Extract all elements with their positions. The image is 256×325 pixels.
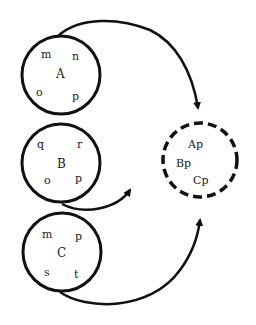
set-b-member-4: p (75, 172, 82, 185)
result-member-3: Cp (193, 174, 208, 187)
set-b: q r B o p (22, 124, 100, 202)
set-diagram: m n A o p q r B o p m p C s t Ap Bp Cp (0, 0, 256, 325)
set-c-label: C (57, 246, 66, 260)
set-a-member-4: p (72, 90, 79, 103)
set-b-member-3: o (44, 174, 51, 187)
set-b-member-2: r (77, 138, 83, 151)
set-c-member-3: s (44, 266, 50, 279)
result-set: Ap Bp Cp (163, 123, 237, 197)
result-member-2: Bp (176, 157, 191, 170)
set-a-label: A (55, 67, 65, 81)
set-a-member-2: n (72, 50, 79, 63)
set-a: m n A o p (22, 36, 100, 114)
set-c-member-2: p (75, 230, 82, 243)
set-b-member-1: q (37, 138, 44, 151)
set-c-member-1: m (42, 228, 53, 241)
set-b-label: B (57, 157, 66, 171)
set-c: m p C s t (23, 213, 101, 291)
result-member-1: Ap (187, 138, 203, 151)
set-a-member-3: o (36, 86, 43, 99)
set-a-member-1: m (41, 48, 52, 61)
set-c-member-4: t (74, 268, 79, 281)
